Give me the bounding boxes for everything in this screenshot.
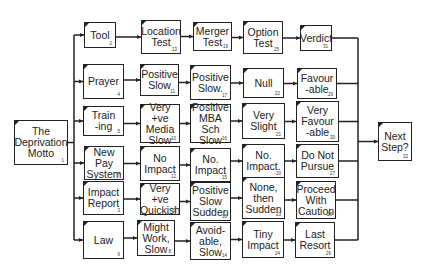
corner-marker-icon [297,145,301,149]
node-number: 17 [222,93,227,98]
node-number: 23 [276,212,281,217]
node-number: 4 [117,92,120,97]
corner-marker-icon [301,26,305,30]
corner-marker-icon [141,105,145,109]
corner-marker-icon [191,66,195,70]
node-label: Train -ing [91,110,117,132]
node-number: 27 [330,171,335,176]
node-number: 32 [403,154,408,159]
corner-marker-icon [243,178,247,182]
node-label: Option Test [247,27,280,49]
corner-marker-icon [243,145,247,149]
node-box: Very Favour -able30 [296,101,339,142]
node-box: Law6 [83,221,124,259]
node-number: 22 [275,91,280,96]
node-box: Tiny Impact24 [242,221,284,258]
corner-marker-icon [379,123,383,127]
node-label: Positive Slow [140,69,179,91]
node-box: Very +ve Media Slow10 [140,104,180,143]
node-number: 3 [117,208,120,213]
node-number: 18 [222,214,227,219]
corner-marker-icon [84,107,88,111]
node-number: 2 [109,41,112,46]
node-number: 13 [172,47,177,52]
node-number: 7 [117,173,120,178]
node-label: Null [253,78,273,89]
corner-marker-icon [244,69,248,73]
corner-marker-icon [84,222,88,226]
node-label: No. Impact. [245,150,281,172]
node-number: 8 [168,249,171,254]
node-box: Train -ing5 [83,106,124,136]
corner-marker-icon [191,223,195,227]
node-number: 31 [323,44,328,49]
node-label: Verdict [299,33,333,44]
node-next-step: Next Step?32 [378,122,412,161]
corner-marker-icon [243,222,247,226]
node-label: None, then Sudden [244,182,282,215]
node-number: 14 [222,253,227,258]
node-box: Very +ve Quickish9 [140,183,180,215]
corner-marker-icon [84,182,88,186]
node-label: Very Slight [249,110,277,132]
node-label: No Impact [143,153,177,175]
node-number: 16 [222,136,227,141]
corner-marker-icon [85,147,89,151]
node-box: Null22 [243,68,284,98]
node-box: Verdict31 [300,25,332,51]
node-number: 20 [276,171,281,176]
node-box: No. Impact15 [190,148,231,182]
corner-marker-icon [298,69,302,73]
node-box: Positive Slow Sudden18 [190,182,231,221]
corner-marker-icon [15,121,19,125]
node-label: No. Impact [194,154,228,176]
corner-marker-icon [142,21,146,25]
corner-marker-icon [244,22,248,26]
node-box: No Impact12 [140,146,180,181]
node-box: Tool2 [84,22,116,48]
node-number: 25 [274,47,279,52]
corner-marker-icon [141,65,145,69]
node-label: Location Test [140,26,182,48]
corner-marker-icon [84,65,88,69]
node-box: Might Work, Slow8 [137,220,175,256]
node-box: Very Slight21 [242,103,285,139]
node-number: 15 [222,175,227,180]
node-number: 28 [327,212,332,217]
node-label: Tool [89,30,110,41]
corner-marker-icon [191,183,195,187]
node-label: Do Not Pursue [300,150,335,172]
node-box: Impact Report3 [83,181,124,215]
node-number: 30 [330,135,335,140]
node-label: Law [93,235,114,246]
corner-marker-icon [194,23,198,27]
node-box: Last Resort26 [295,222,335,258]
node-number: 12 [171,174,176,179]
corner-marker-icon [191,105,195,109]
node-number: 1 [61,158,64,163]
node-label: Next Step? [380,131,409,153]
node-box: Positive Slow.17 [190,65,231,100]
node-box: New Pay System7 [84,146,124,180]
node-box: Location Test13 [141,20,181,54]
node-label: Positive Slow. [191,72,230,94]
node-label: Very Favour -able [300,105,335,138]
corner-marker-icon [138,221,142,225]
node-box: Proceed With Caution28 [296,181,336,219]
node-root: The Deprivation Motto1 [14,120,68,165]
corner-marker-icon [297,102,301,106]
node-label: Tiny Impact [246,229,280,251]
node-box: Favour -able29 [297,68,337,99]
node-box: None, then Sudden23 [242,177,285,219]
node-label: The Deprivation Motto [13,126,68,159]
flow-diagram: The Deprivation Motto1Next Step?32Tool2L… [0,0,423,272]
node-number: 26 [326,251,331,256]
node-box: Avoid- able, Slow14 [190,222,231,260]
node-number: 19 [223,44,228,49]
node-number: 9 [173,208,176,213]
corner-marker-icon [85,23,89,27]
node-box: Merger Test19 [193,22,232,51]
corner-marker-icon [243,104,247,108]
node-label: Might Work, Slow [141,222,170,255]
node-number: 5 [117,129,120,134]
